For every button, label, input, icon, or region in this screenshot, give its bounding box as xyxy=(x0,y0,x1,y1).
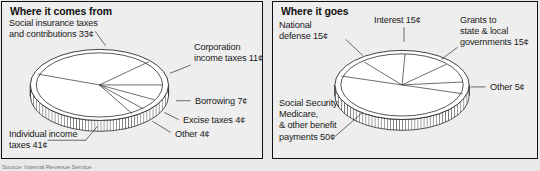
label-interest: Interest 15¢ xyxy=(374,15,446,26)
label-excise-taxes: Excise taxes 4¢ xyxy=(183,115,261,126)
label-grants-state-local: Grants to state & local governments 15¢ xyxy=(460,15,538,49)
label-other: Other 5¢ xyxy=(490,82,538,93)
panel-where-it-comes-from: Where it comes from xyxy=(1,1,263,159)
figure-root: Where it comes from xyxy=(0,0,540,171)
label-borrowing: Borrowing 7¢ xyxy=(195,96,263,107)
label-national-defense: National defense 15¢ xyxy=(279,20,349,42)
figure-caption: Source: Internal Revenue Service xyxy=(2,163,432,171)
label-corporation-income: Corporation income taxes 11¢ xyxy=(194,42,263,64)
label-individual-income: Individual income taxes 41¢ xyxy=(9,129,104,151)
label-social-security: Social Security, Medicare, & other benef… xyxy=(279,98,365,143)
label-other: Other 4¢ xyxy=(175,129,235,140)
panel-where-it-goes: Where it goes xyxy=(272,1,538,159)
label-social-insurance: Social insurance taxes and contributions… xyxy=(9,18,141,40)
